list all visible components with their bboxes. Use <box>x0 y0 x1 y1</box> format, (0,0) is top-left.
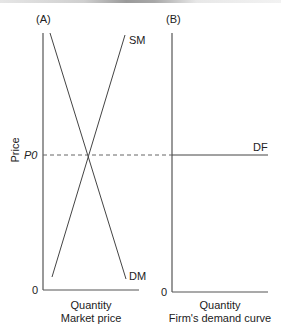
firm-demand-label: DF <box>253 141 268 153</box>
supply-label: SM <box>129 34 146 46</box>
panel-a-origin-label: 0 <box>32 284 38 296</box>
panel-b-origin-label: 0 <box>161 286 167 298</box>
panel-b-xlabel: Quantity <box>200 299 241 311</box>
diagram-canvas <box>0 0 281 335</box>
demand-market-label: DM <box>129 270 146 282</box>
panel-a-xlabel: Quantity <box>71 299 112 311</box>
panel-a-tag: (A) <box>36 13 51 25</box>
panel-a-caption: Market price <box>61 312 122 324</box>
price-level-label: P0 <box>24 149 37 161</box>
panel-b-tag: (B) <box>166 13 181 25</box>
panel-b-caption: Firm's demand curve <box>169 312 271 324</box>
y-axis-label: Price <box>9 135 21 165</box>
